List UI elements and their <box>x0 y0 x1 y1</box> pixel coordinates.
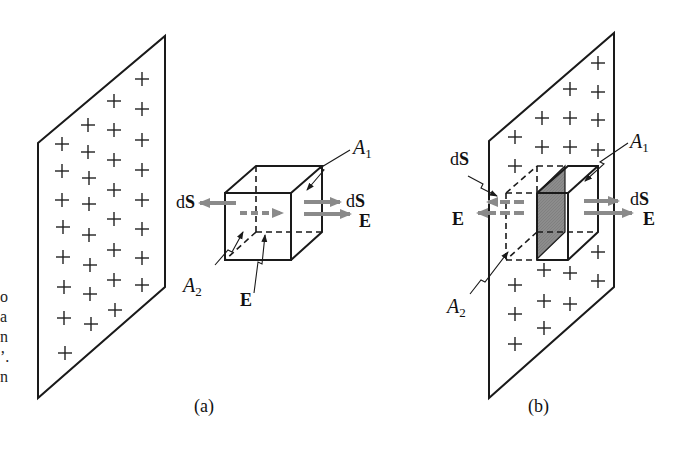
plus-icon <box>83 287 97 301</box>
dS-label-right: dS <box>630 189 649 209</box>
plus-icon <box>56 250 70 264</box>
panel-b: dS dS E E A1 A2 (b) <box>445 33 655 417</box>
plus-icon <box>135 102 149 116</box>
A1-label: A1 <box>628 130 649 155</box>
panel-b-label: (b) <box>528 396 549 417</box>
plus-icon <box>135 251 149 265</box>
plus-icon <box>107 153 121 167</box>
plus-icon <box>537 294 551 308</box>
E-label-right: E <box>359 211 371 231</box>
plus-icon <box>55 137 69 151</box>
A2-label: A2 <box>445 295 466 320</box>
plus-icon <box>135 278 149 292</box>
plus-icon <box>508 159 522 173</box>
plus-icon <box>563 82 577 96</box>
plus-icon <box>563 140 577 154</box>
plus-icon <box>537 321 551 335</box>
plus-icon <box>55 193 69 207</box>
charged-plate <box>38 36 165 398</box>
flux-arrows <box>200 202 350 214</box>
plus-icon <box>591 85 605 99</box>
figure-canvas: dS dS E E A1 A2 (a) <box>0 0 687 468</box>
plus-icon <box>58 346 72 360</box>
plus-icon <box>57 280 71 294</box>
E-label-left: E <box>452 209 464 229</box>
plus-icon <box>563 297 577 311</box>
plus-icon <box>83 258 97 272</box>
plus-icon <box>57 311 71 325</box>
A1-label: A1 <box>351 136 372 161</box>
plus-icon <box>591 143 605 157</box>
plus-icon <box>81 145 95 159</box>
plus-icon <box>107 123 121 137</box>
plus-icon <box>107 212 121 226</box>
plus-icon <box>591 274 605 288</box>
E-label-right: E <box>643 209 655 229</box>
dS-label-right: dS <box>346 191 365 211</box>
panel-a-label: (a) <box>194 396 214 417</box>
plus-icon <box>81 118 95 132</box>
leader-lines <box>215 150 350 293</box>
plus-icon <box>591 56 605 70</box>
plus-icon <box>82 228 96 242</box>
plus-icon <box>508 337 522 351</box>
A2-label: A2 <box>181 274 202 299</box>
plus-icon <box>508 130 522 144</box>
plus-icon <box>82 197 96 211</box>
plus-icon <box>135 163 149 177</box>
plus-icon <box>84 317 98 331</box>
plus-icon <box>56 220 70 234</box>
plus-icon <box>508 307 522 321</box>
plus-icon <box>135 133 149 147</box>
plus-icon <box>107 94 121 108</box>
plus-icon <box>537 263 551 277</box>
plus-icon <box>535 111 549 125</box>
plus-icon <box>563 266 577 280</box>
plus-icon <box>108 303 122 317</box>
plus-icon <box>563 111 577 125</box>
plus-icon <box>135 193 149 207</box>
plus-icon <box>135 72 149 86</box>
plus-icon <box>591 245 605 259</box>
plus-icon <box>107 273 121 287</box>
plus-charges <box>55 72 149 360</box>
E-label-bottom: E <box>240 290 252 310</box>
dS-label-left: dS <box>450 149 469 169</box>
plus-icon <box>591 113 605 127</box>
plus-icon <box>135 222 149 236</box>
dS-label-left: dS <box>176 192 195 212</box>
panel-a: dS dS E E A1 A2 (a) <box>38 36 372 417</box>
plus-icon <box>107 183 121 197</box>
plus-icon <box>508 278 522 292</box>
plus-icon <box>82 171 96 185</box>
plus-icon <box>107 243 121 257</box>
plus-icon <box>55 164 69 178</box>
plus-icon <box>535 140 549 154</box>
